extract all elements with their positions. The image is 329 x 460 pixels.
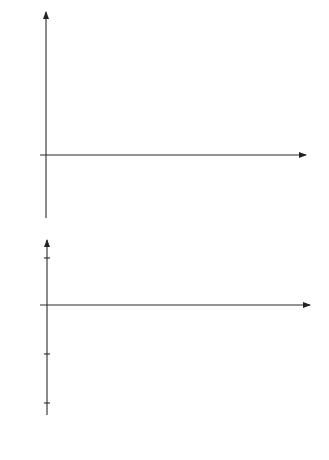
bode-diagram xyxy=(0,0,329,460)
phase-plot xyxy=(40,240,310,415)
magnitude-plot xyxy=(40,12,306,218)
